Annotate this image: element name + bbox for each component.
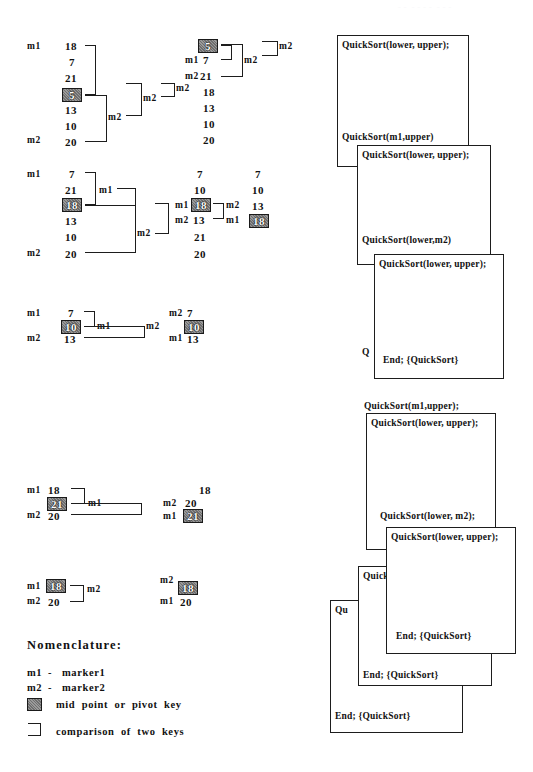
- trace-2-left-key-1: 21: [65, 185, 77, 196]
- trace-5-left-key-1: 20: [48, 597, 60, 608]
- trace-4-bracket-a: [71, 488, 85, 504]
- trace-2-mid-key-5: 20: [194, 249, 206, 260]
- trace-2-left-marker-bottom: m2: [27, 249, 41, 259]
- trace-4-left-marker-top: m1: [27, 486, 41, 496]
- scan-artifact: _ _ _ _ _ _ _ _ _: [398, 3, 452, 8]
- trace-1-left-key-1: 7: [69, 57, 75, 68]
- trace-5-left-pivot: 18: [46, 579, 66, 593]
- callstack-box-1-bottom-label: QuickSort(m1,upper): [342, 133, 434, 143]
- trace-2-right-key-0: 7: [255, 169, 261, 180]
- trace-4-left-pivot: 21: [47, 497, 67, 511]
- trace-5-right-marker-0: m2: [160, 576, 174, 586]
- trace-1-right-bracket-label-0: m2: [244, 56, 258, 66]
- nomenclature-entry-0-dash: -: [48, 668, 52, 679]
- trace-3-left-marker-top: m1: [27, 309, 41, 319]
- trace-1-right-marker-1: m1: [185, 56, 199, 66]
- nomenclature-entry-1-dash: -: [48, 683, 52, 694]
- trace-3-left-key-0: 7: [68, 308, 74, 319]
- trace-5-bracket-label-0: m2: [87, 585, 101, 595]
- trace-4-right-key-0: 18: [199, 485, 211, 496]
- trace-1-right-marker-2: m2: [185, 72, 199, 82]
- trace-2-bracket-d: [155, 203, 169, 234]
- trace-5-left-marker-top: m1: [27, 582, 41, 592]
- callstack-box-5-bottom-label: End; {QuickSort}: [396, 632, 471, 642]
- trace-2-bracket-b: [117, 188, 136, 206]
- trace-1-left-key-5: 10: [65, 121, 77, 132]
- trace-2-right-key-1: 10: [252, 185, 264, 196]
- trace-2-mid-key-1: 10: [194, 185, 206, 196]
- trace-1-right-key-5: 10: [203, 119, 215, 130]
- nomenclature-entry-1-key: m2: [27, 683, 42, 694]
- trace-1-right-key-3: 18: [203, 87, 215, 98]
- trace-1-bracket-d: [161, 83, 175, 97]
- trace-5-left-marker-bottom: m2: [27, 597, 41, 607]
- nomenclature-entry-0-label: marker1: [62, 668, 105, 679]
- trace-2-left-pivot: 18: [62, 198, 82, 212]
- callstack-box-3-top-label: QuickSort(lower, upper);: [379, 260, 486, 270]
- trace-3-left-marker-bottom: m2: [27, 334, 41, 344]
- callstack-box-2-bottom-label: QuickSort(lower,m2): [362, 236, 451, 246]
- trace-2-bracket-label-0: m1: [99, 186, 113, 196]
- trace-2-mid-bracket: [213, 203, 224, 219]
- trace-4-bracket-b: [71, 503, 142, 515]
- trace-3-right-marker-2: m1: [169, 334, 183, 344]
- trace-2-mid-key-0: 7: [197, 169, 203, 180]
- trace-1-right-bracket-label-1: m2: [279, 42, 293, 52]
- trace-3-right-key-0: 7: [187, 308, 193, 319]
- callstack-box-7-top-label: Qu: [335, 606, 348, 616]
- trace-2-bracket-a: [85, 172, 96, 205]
- trace-2-mid-key-3: 13: [193, 215, 205, 226]
- trace-3-left-pivot: 10: [61, 320, 81, 334]
- trace-5-right-marker-1: m1: [160, 597, 174, 607]
- callstack-box-4-occluded-label: Q: [362, 348, 370, 358]
- trace-5-bracket-a: [70, 585, 84, 602]
- trace-4-right-key-1: 20: [185, 498, 197, 509]
- trace-2-mid-bracket-label-1: m1: [226, 216, 240, 226]
- trace-3-right-key-2: 13: [187, 334, 199, 345]
- trace-3-bracket-b: [84, 326, 145, 338]
- trace-1-bracket-c: [126, 83, 142, 116]
- trace-1-left-key-2: 21: [65, 73, 77, 84]
- trace-5-right-key-1: 20: [180, 597, 192, 608]
- trace-2-bracket-c: [85, 205, 136, 253]
- nomenclature-legend-pivot: mid point or pivot key: [56, 700, 182, 711]
- trace-2-mid-pivot: 18: [191, 198, 211, 212]
- trace-1-right-pivot: 5: [198, 39, 218, 53]
- trace-1-left-key-6: 20: [65, 137, 77, 148]
- trace-2-mid-bracket-label-0: m2: [226, 201, 240, 211]
- trace-1-bracket-b: [85, 95, 107, 142]
- trace-1-bracket-label-0: m2: [108, 113, 122, 123]
- trace-1-right-key-4: 13: [203, 103, 215, 114]
- trace-1-bracket-label-2: m2: [176, 84, 190, 94]
- trace-4-left-marker-bottom: m2: [27, 511, 41, 521]
- callstack-box-3-bottom-label: End; {QuickSort}: [383, 356, 458, 366]
- trace-1-left-marker-bottom: m2: [27, 136, 41, 146]
- trace-4-left-key-0: 18: [48, 485, 60, 496]
- callstack-box-1-top-label: QuickSort(lower, upper);: [342, 41, 449, 51]
- pivot-key-swatch: [27, 698, 42, 711]
- trace-4-right-marker-1: m2: [163, 499, 177, 509]
- callstack-box-7-bottom-label: End; {QuickSort}: [335, 712, 410, 722]
- nomenclature-title: Nomenclature:: [27, 639, 122, 652]
- callstack-box-2: [357, 145, 491, 265]
- callstack-box-2-top-label: QuickSort(lower, upper);: [362, 151, 469, 161]
- trace-2-mid-key-4: 21: [194, 232, 206, 243]
- trace-1-left-key-4: 13: [65, 105, 77, 116]
- callstack-box-6-bottom-label: End; {QuickSort}: [363, 671, 438, 681]
- trace-2-right-pivot: 18: [249, 214, 269, 228]
- trace-1-left-pivot: 5: [62, 88, 82, 102]
- trace-1-right-key-2: 21: [200, 71, 212, 82]
- trace-3-right-pivot: 10: [184, 320, 204, 334]
- trace-2-bracket-label-1: m2: [137, 229, 151, 239]
- trace-2-right-key-2: 13: [252, 201, 264, 212]
- trace-1-right-key-1: 7: [203, 55, 209, 66]
- callstack-box-6-top-label: Quick: [363, 572, 389, 582]
- trace-1-left-key-0: 18: [65, 41, 77, 52]
- nomenclature-legend-bracket: comparison of two keys: [56, 727, 184, 738]
- trace-5-right-pivot: 18: [178, 581, 198, 595]
- trace-2-mid-marker-3: m2: [175, 216, 189, 226]
- nomenclature-entry-0-key: m1: [27, 668, 42, 679]
- callstack-box-5-top-label: QuickSort(lower, upper);: [391, 533, 498, 543]
- trace-3-right-marker-0: m2: [169, 309, 183, 319]
- nomenclature-entry-1-label: marker2: [62, 683, 105, 694]
